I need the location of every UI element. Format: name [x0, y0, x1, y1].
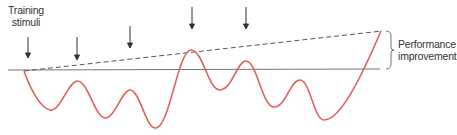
curly-bracket-icon: [386, 31, 394, 69]
performance-label-line2: improvement: [398, 50, 457, 62]
arrow-down-icon: [26, 37, 31, 58]
arrow-down-icon: [190, 7, 195, 29]
training-label-line2: stimuli: [4, 16, 48, 28]
arrow-down-icon: [244, 7, 249, 29]
arrow-down-icon: [75, 37, 80, 60]
arrow-down-icon: [128, 26, 133, 48]
stimulus-arrows: [26, 7, 249, 60]
performance-label-line1: Performance: [398, 38, 457, 50]
training-label-line1: Training: [4, 4, 48, 16]
training-stimuli-label: Training stimuli: [4, 4, 48, 28]
baseline: [8, 69, 380, 70]
performance-improvement-label: Performance improvement: [398, 38, 457, 62]
performance-curve: [24, 31, 381, 128]
